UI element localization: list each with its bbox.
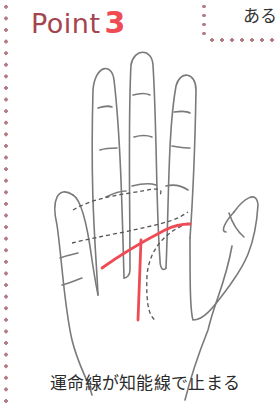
- highlighted-lines: [102, 224, 190, 320]
- caption: 運命線が知能線で止まる: [50, 369, 240, 394]
- palm-illustration: [0, 0, 275, 406]
- hand-outline: [55, 52, 258, 400]
- fate-line-red: [138, 240, 141, 320]
- head-line-red: [102, 224, 190, 268]
